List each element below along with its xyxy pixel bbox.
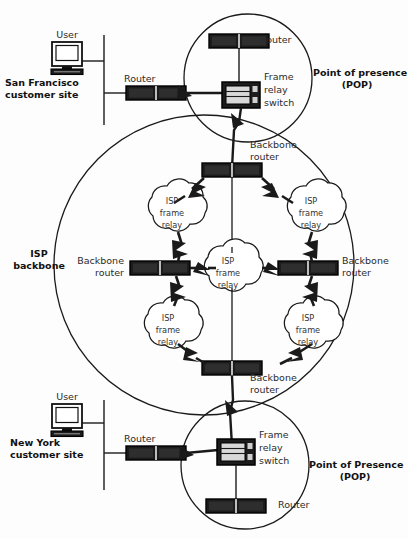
backbone-router-right-label-line2: router [342, 268, 408, 279]
cloud-sw-label-line1: ISP [146, 314, 190, 323]
backbone-router-right-label-line1: Backbone [342, 256, 408, 267]
network-diagram: User San Francisco customer site Router … [0, 0, 408, 539]
sf-site-label-line1: San Francisco [5, 78, 91, 89]
pop-top-router-label: Router [260, 35, 310, 46]
pop-bottom-switch-label-line2: relay [259, 443, 305, 454]
sf-user-label: User [45, 30, 89, 41]
ny-site-label-line1: New York [10, 438, 96, 449]
pop-top-switch-label-line3: switch [264, 98, 310, 109]
sf-router-label: Router [124, 74, 172, 85]
ny-user-workstation [51, 404, 83, 437]
cloud-ne-label-line1: ISP [289, 197, 333, 206]
cloud-nw-label-line3: relay [150, 221, 194, 230]
pop-bottom-switch-label-line1: Frame [259, 430, 305, 441]
bolt-cloudne-bbright [302, 240, 318, 259]
cloud-center-label-line3: relay [206, 281, 250, 290]
pop-bottom-label-line1: Point of Presence [309, 460, 408, 471]
cloud-se-label-line3: relay [286, 338, 330, 347]
pop-top-label-line1: Point of presence [313, 68, 408, 79]
cloud-sw-label-line2: frame [146, 326, 190, 335]
bolt-cloudnw-bbleft [172, 240, 188, 259]
cloud-center-label-line2: frame [206, 269, 250, 278]
backbone-router-bottom-label-line2: router [250, 385, 312, 396]
backbone-router-right-device [278, 261, 338, 275]
cloud-se-label-line2: frame [286, 326, 330, 335]
cloud-sw-label-line3: relay [146, 338, 190, 347]
ny-user-label: User [45, 392, 89, 403]
cloud-center-label-line1: ISP [206, 257, 250, 266]
pop-top-label-line2: (POP) [313, 80, 401, 91]
backbone-router-top-label-line1: Backbone [250, 140, 310, 151]
bolt-bbright-cloudse [302, 282, 318, 302]
backbone-router-left-device [130, 261, 190, 275]
backbone-router-bottom-label-line1: Backbone [250, 373, 312, 384]
ny-site-label-line2: customer site [10, 450, 96, 461]
pop-top-switch-label-line1: Frame [264, 72, 310, 83]
pop-bottom-switch-device [217, 439, 255, 465]
backbone-router-top-device [202, 163, 262, 177]
pop-bottom-router-device [206, 499, 266, 513]
sf-router-device [126, 86, 186, 100]
backbone-router-top-label-line2: router [250, 152, 310, 163]
ny-router-device [126, 446, 186, 460]
cloud-ne-label-line3: relay [289, 221, 333, 230]
ny-router-label: Router [124, 434, 172, 445]
pop-bottom-switch-label-line3: switch [259, 456, 305, 467]
cloud-se-label-line1: ISP [286, 314, 330, 323]
cloud-ne-label-line2: frame [289, 209, 333, 218]
ny-access-link [186, 450, 218, 453]
backbone-router-left-label-line2: router [60, 268, 124, 279]
cloud-nw-label-line1: ISP [150, 197, 194, 206]
backbone-router-left-label-line1: Backbone [60, 256, 124, 267]
pop-top-switch-device [222, 82, 260, 108]
pop-bottom-label-line2: (POP) [309, 472, 401, 483]
cloud-nw-label-line2: frame [150, 209, 194, 218]
sf-site-label-line2: customer site [5, 90, 91, 101]
bolt-bbtop-cloudne [261, 183, 279, 198]
pop-bottom-router-label: Router [278, 500, 328, 511]
pop-top-switch-label-line2: relay [264, 85, 310, 96]
sf-user-workstation [51, 42, 83, 75]
